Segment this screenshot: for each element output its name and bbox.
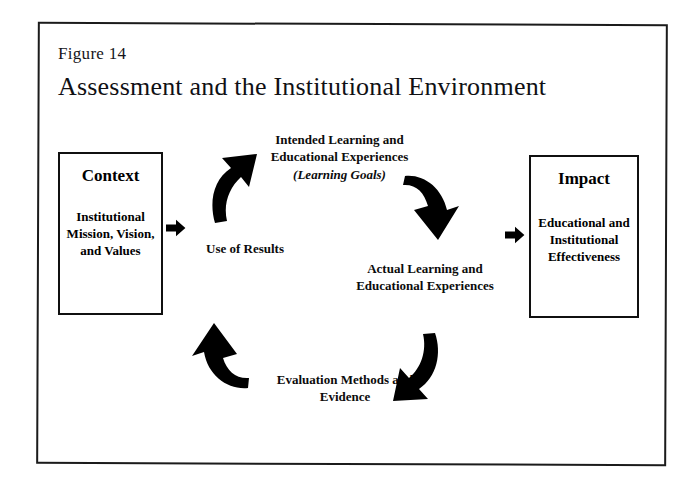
curved-arrow-down-left-icon: [385, 331, 445, 403]
figure-number-label: Figure 14: [58, 44, 126, 64]
right-arrow-icon-context-to-cycle: [166, 219, 186, 237]
curved-arrow-down-right-icon: [402, 166, 464, 242]
context-box-heading: Context: [60, 167, 161, 186]
impact-box-body: Educational and Institutional Effectiven…: [531, 214, 637, 265]
curved-arrow-up-left-icon: [190, 322, 252, 394]
cycle-label-intended-parenthetical: (Learning Goals): [262, 166, 417, 183]
impact-box: Impact Educational and Institutional Eff…: [529, 155, 639, 318]
impact-box-heading: Impact: [531, 170, 637, 189]
curved-arrow-up-right-icon: [205, 152, 263, 224]
cycle-label-intended-main: Intended Learning and Educational Experi…: [262, 131, 417, 166]
cycle-label-intended: Intended Learning and Educational Experi…: [262, 131, 417, 183]
cycle-label-actual: Actual Learning and Educational Experien…: [340, 260, 510, 295]
figure-title: Assessment and the Institutional Environ…: [58, 72, 546, 102]
context-box: Context Institutional Mission, Vision, a…: [58, 152, 163, 315]
context-box-body: Institutional Mission, Vision, and Value…: [60, 208, 161, 259]
cycle-label-use-of-results: Use of Results: [190, 240, 300, 257]
right-arrow-icon-cycle-to-impact: [505, 226, 525, 244]
